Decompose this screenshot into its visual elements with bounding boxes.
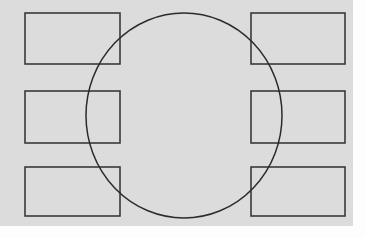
rect-middle-left[interactable] [25, 91, 120, 143]
rect-top-left[interactable] [25, 13, 120, 64]
rect-middle-right[interactable] [251, 91, 345, 143]
rect-top-right[interactable] [251, 13, 345, 64]
overlay-circle[interactable] [86, 13, 282, 218]
diagram-stage [0, 0, 365, 238]
diagram-canvas [0, 0, 365, 238]
rect-bottom-left[interactable] [25, 167, 120, 216]
